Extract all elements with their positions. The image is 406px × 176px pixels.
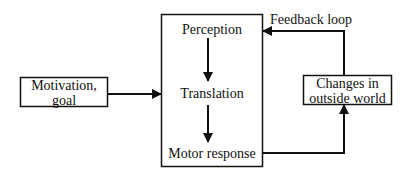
- perception-label: Perception: [161, 22, 263, 37]
- motor-response-label: Motor response: [161, 146, 263, 161]
- feedback-loop-label: Feedback loop: [270, 12, 350, 27]
- changes-label: Changes in outside world: [303, 76, 392, 106]
- motivation-label: Motivation, goal: [20, 78, 108, 108]
- translation-label: Translation: [161, 86, 263, 101]
- arrow-motor-to-changes: [263, 105, 344, 153]
- arrow-feedback-loop: [263, 31, 344, 75]
